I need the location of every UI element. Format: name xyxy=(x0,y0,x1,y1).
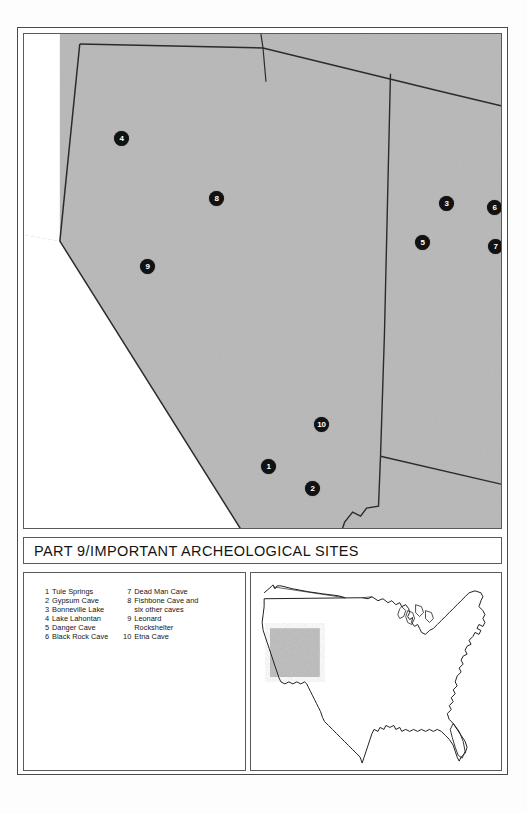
great-lakes-path xyxy=(398,605,434,625)
legend-number: 2 xyxy=(38,596,52,605)
marker-label: 2 xyxy=(310,484,314,493)
marker-label: 4 xyxy=(119,134,123,143)
legend-label: Lake Lahontan xyxy=(52,614,101,623)
map-marker-8[interactable]: 8 xyxy=(209,191,224,206)
legend-label: Danger Cave xyxy=(52,623,96,632)
legend-label: Tule Springs xyxy=(52,587,93,596)
legend-item-2[interactable]: 2 Gypsum Cave xyxy=(38,596,108,605)
great-basin-map-graphic xyxy=(24,34,501,528)
marker-label: 1 xyxy=(266,462,270,471)
legend-item-6[interactable]: 6 Black Rock Cave xyxy=(38,632,108,641)
map-marker-7[interactable]: 7 xyxy=(488,239,502,254)
legend-item-10[interactable]: 10 Etna Cave xyxy=(120,632,198,641)
legend-item-9[interactable]: 9 Leonard xyxy=(120,614,198,623)
map-title-bar: PART 9/IMPORTANT ARCHEOLOGICAL SITES xyxy=(23,537,502,564)
legend-number: 6 xyxy=(38,632,52,641)
florida-path xyxy=(450,723,465,758)
map-marker-6[interactable]: 6 xyxy=(487,200,502,215)
legend-number: 7 xyxy=(120,587,134,596)
legend-item-5[interactable]: 5 Danger Cave xyxy=(38,623,108,632)
map-marker-2[interactable]: 2 xyxy=(305,481,320,496)
northern-border-line xyxy=(273,587,372,598)
map-marker-1[interactable]: 1 xyxy=(261,459,276,474)
legend-item-4[interactable]: 4 Lake Lahontan xyxy=(38,614,108,623)
legend-panel: 1 Tule Springs 2 Gypsum Cave 3 Bonnevill… xyxy=(23,572,246,771)
map-marker-3[interactable]: 3 xyxy=(439,196,454,211)
legend-label: Dead Man Cave xyxy=(134,587,187,596)
marker-label: 7 xyxy=(493,242,497,251)
marker-label: 8 xyxy=(214,194,218,203)
legend-column-left: 1 Tule Springs 2 Gypsum Cave 3 Bonnevill… xyxy=(38,587,108,642)
main-map-panel[interactable]: 1 2 3 4 5 6 7 8 9 10 xyxy=(23,33,502,529)
legend-number: 10 xyxy=(120,632,134,641)
map-marker-5[interactable]: 5 xyxy=(415,235,430,250)
map-marker-4[interactable]: 4 xyxy=(114,131,129,146)
legend-column-right: 7 Dead Man Cave 8 Fishbone Cave and six … xyxy=(120,587,198,642)
great-basin-highlight-grain xyxy=(270,628,319,677)
marker-label: 5 xyxy=(420,238,424,247)
legend-item-9-continuation: Rockshelter xyxy=(120,623,198,632)
legend-item-1[interactable]: 1 Tule Springs xyxy=(38,587,108,596)
marker-label: 10 xyxy=(317,420,326,429)
legend-number: 3 xyxy=(38,605,52,614)
marker-label: 6 xyxy=(492,203,496,212)
us-outline-map xyxy=(251,573,501,770)
inset-panel[interactable] xyxy=(250,572,502,771)
legend-number: 4 xyxy=(38,614,52,623)
map-marker-10[interactable]: 10 xyxy=(314,417,329,432)
legend-number: 9 xyxy=(120,614,134,623)
page-title: PART 9/IMPORTANT ARCHEOLOGICAL SITES xyxy=(24,543,359,559)
legend-number: 1 xyxy=(38,587,52,596)
legend-number: 5 xyxy=(38,623,52,632)
legend-label: Black Rock Cave xyxy=(52,632,108,641)
legend-label: Bonneville Lake xyxy=(52,605,104,614)
legend-item-8[interactable]: 8 Fishbone Cave and xyxy=(120,596,198,605)
page-frame: 1 2 3 4 5 6 7 8 9 10 PART 9/IMPORTANT AR… xyxy=(17,27,508,775)
legend-number: 8 xyxy=(120,596,134,605)
legend-label: Etna Cave xyxy=(134,632,169,641)
marker-label: 9 xyxy=(145,262,149,271)
legend-columns: 1 Tule Springs 2 Gypsum Cave 3 Bonnevill… xyxy=(38,587,198,642)
legend-item-7[interactable]: 7 Dead Man Cave xyxy=(120,587,198,596)
marker-label: 3 xyxy=(444,199,448,208)
map-marker-9[interactable]: 9 xyxy=(140,259,155,274)
legend-item-8-continuation: six other caves xyxy=(120,605,198,614)
legend-label: Fishbone Cave and xyxy=(134,596,198,605)
legend-label: Gypsum Cave xyxy=(52,596,99,605)
legend-item-3[interactable]: 3 Bonneville Lake xyxy=(38,605,108,614)
legend-label: Leonard xyxy=(134,614,161,623)
